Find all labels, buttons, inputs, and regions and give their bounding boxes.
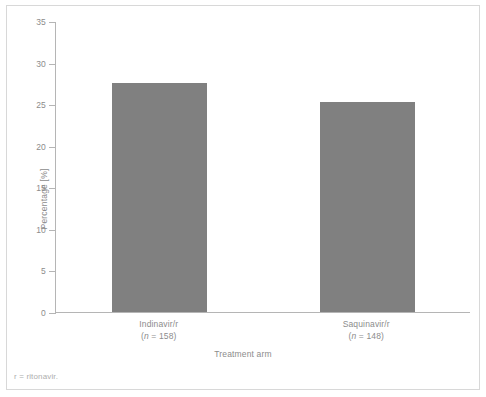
y-axis-tick-label: 30	[36, 59, 46, 69]
y-axis-tick	[49, 188, 56, 189]
plot-area: 05101520253035	[55, 22, 470, 313]
plot-inner	[56, 22, 470, 312]
bar	[112, 83, 207, 312]
figure-bar-chart: Percentage [%] 05101520253035 Treatment …	[0, 0, 486, 397]
figure-footnote: r = ritonavir.	[14, 372, 58, 381]
y-axis-tick-label: 15	[36, 183, 46, 193]
y-axis-tick	[49, 147, 56, 148]
x-axis-category-name: Indinavir/r	[55, 318, 263, 330]
y-axis-tick-label: 35	[36, 17, 46, 27]
y-axis-title: Percentage [%]	[39, 168, 49, 229]
x-axis-category-label: Saquinavir/r(n = 148)	[263, 318, 471, 342]
bar	[320, 102, 415, 312]
x-axis-category-count: (n = 148)	[263, 330, 471, 342]
y-axis-tick	[49, 313, 56, 314]
x-axis-category-label: Indinavir/r(n = 158)	[55, 318, 263, 342]
y-axis-tick	[49, 22, 56, 23]
y-axis-tick	[49, 105, 56, 106]
y-axis-tick-label: 0	[41, 308, 46, 318]
y-axis-tick-label: 25	[36, 100, 46, 110]
y-axis-tick-label: 20	[36, 142, 46, 152]
x-axis-title: Treatment arm	[0, 349, 486, 359]
y-axis-tick-label: 5	[41, 266, 46, 276]
y-axis-tick	[49, 230, 56, 231]
x-axis-category-count: (n = 158)	[55, 330, 263, 342]
y-axis-tick	[49, 271, 56, 272]
x-axis-category-name: Saquinavir/r	[263, 318, 471, 330]
y-axis-tick-label: 10	[36, 225, 46, 235]
y-axis-tick	[49, 64, 56, 65]
